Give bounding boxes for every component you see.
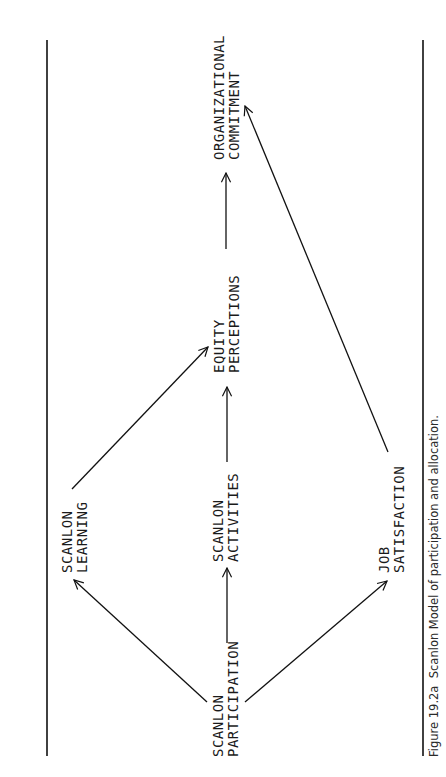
node-equity: EQUITY PERCEPTIONS: [211, 275, 242, 373]
node-job-satisfaction-line2: SATISFACTION: [391, 466, 407, 573]
node-commitment-line1: ORGANIZATIONAL: [211, 35, 227, 160]
scanlon-model-diagram: ORGANIZATIONAL COMMITMENT EQUITY PERCEPT…: [0, 0, 446, 777]
node-commitment-line2: COMMITMENT: [226, 71, 242, 160]
node-activities-line2: ACTIVITIES: [225, 473, 241, 562]
node-learning-line2: LEARNING: [74, 502, 90, 573]
node-activities-line1: SCANLON: [210, 499, 226, 562]
edge-participation-to-learning: [74, 580, 207, 702]
node-activities: SCANLON ACTIVITIES: [210, 473, 241, 562]
node-job-satisfaction: JOB SATISFACTION: [376, 466, 407, 573]
edge-participation-to-job-satisfaction: [245, 581, 387, 702]
node-commitment: ORGANIZATIONAL COMMITMENT: [211, 35, 242, 160]
node-equity-line1: EQUITY: [211, 319, 227, 373]
node-equity-line2: PERCEPTIONS: [226, 275, 242, 373]
node-participation-line1: SCANLON: [210, 694, 226, 757]
figure-caption-text: Figure 19.2a Scanlon Model of participat…: [427, 415, 441, 757]
node-job-satisfaction-line1: JOB: [376, 546, 392, 573]
node-learning: SCANLON LEARNING: [59, 502, 90, 573]
figure-caption: Figure 19.2a Scanlon Model of participat…: [427, 415, 441, 757]
node-learning-line1: SCANLON: [59, 510, 75, 573]
edge-job-satisfaction-to-commitment: [245, 106, 388, 452]
node-participation-line2: PARTICIPATION: [225, 641, 241, 757]
edge-learning-to-equity: [72, 347, 208, 489]
node-participation: SCANLON PARTICIPATION: [210, 641, 241, 757]
